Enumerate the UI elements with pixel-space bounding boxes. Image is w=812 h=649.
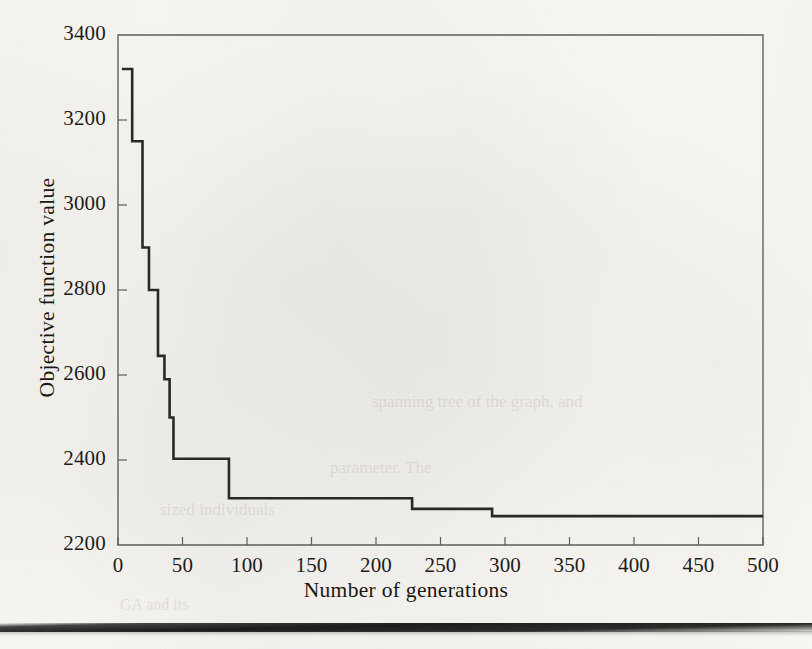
- x-axis-title: Number of generations: [0, 578, 812, 603]
- y-axis-ticks: [118, 120, 127, 460]
- y-tick-label: 3200: [6, 106, 106, 131]
- y-tick-label: 2400: [6, 446, 106, 471]
- y-axis-title: Objective function value: [35, 138, 60, 438]
- scan-edge-bar-shadow: [0, 631, 812, 636]
- y-tick-label: 3400: [6, 21, 106, 46]
- x-axis-ticks: [118, 537, 763, 545]
- chart-figure: spanning tree of the graph, andparameter…: [0, 0, 812, 612]
- scanned-page: spanning tree of the graph, andparameter…: [0, 0, 812, 649]
- x-tick-label: 500: [723, 553, 803, 578]
- plot-frame: [118, 35, 763, 545]
- chart-canvas: [0, 0, 812, 612]
- objective-value-series: [122, 69, 763, 516]
